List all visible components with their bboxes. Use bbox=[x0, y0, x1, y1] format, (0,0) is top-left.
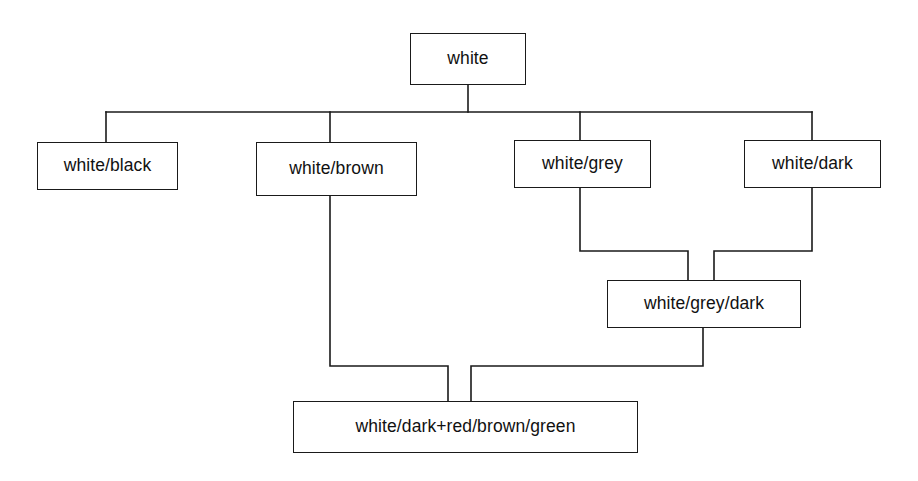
node-white-grey[interactable]: white/grey bbox=[514, 140, 651, 188]
node-white-dark[interactable]: white/dark bbox=[744, 140, 881, 188]
node-white-black-label: white/black bbox=[62, 157, 154, 175]
node-white-grey-dark-label: white/grey/dark bbox=[642, 295, 766, 313]
connector-path-8 bbox=[330, 196, 448, 401]
node-white-brown-label: white/brown bbox=[287, 160, 385, 178]
node-white-brown[interactable]: white/brown bbox=[256, 142, 417, 196]
node-white-dark-red-brown-green-label: white/dark+red/brown/green bbox=[353, 418, 577, 436]
node-white-dark-red-brown-green[interactable]: white/dark+red/brown/green bbox=[293, 401, 638, 453]
node-white-label: white bbox=[445, 50, 490, 68]
node-white-grey-dark[interactable]: white/grey/dark bbox=[607, 280, 801, 328]
connector-lines bbox=[106, 85, 812, 401]
node-white-grey-label: white/grey bbox=[540, 155, 625, 173]
connector-path-7 bbox=[714, 188, 812, 280]
connector-path-9 bbox=[471, 328, 703, 401]
hierarchy-diagram: white white/black white/brown white/grey… bbox=[0, 0, 918, 481]
node-white[interactable]: white bbox=[410, 33, 526, 85]
connector-path-6 bbox=[580, 188, 688, 280]
node-white-dark-label: white/dark bbox=[770, 155, 855, 173]
node-white-black[interactable]: white/black bbox=[37, 142, 178, 190]
